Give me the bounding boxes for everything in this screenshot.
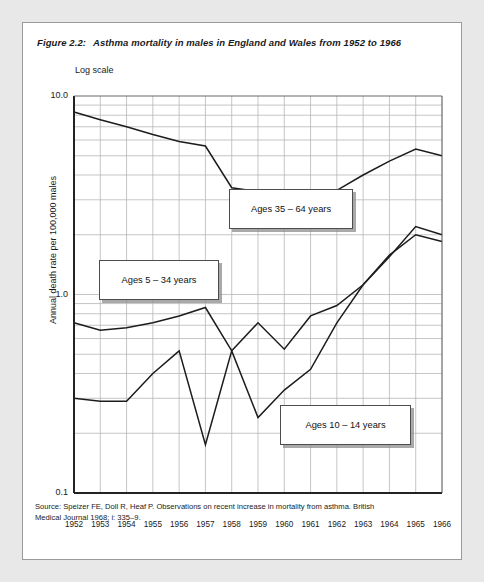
callout-ages-5-34: Ages 5 – 34 years bbox=[99, 260, 219, 300]
callout-label: Ages 5 – 34 years bbox=[122, 275, 197, 285]
y-tick-label: 0.1 bbox=[38, 487, 68, 497]
callout-ages-35-64: Ages 35 – 64 years bbox=[229, 189, 353, 229]
figure-page: Figure 2.2:Asthma mortality in males in … bbox=[22, 22, 462, 560]
callout-ages-10-14: Ages 10 – 14 years bbox=[280, 405, 411, 445]
source-line-1: Source: Speizer FE, Doll R, Heaf P. Obse… bbox=[35, 501, 445, 512]
source-line-2: Medical Journal 1968; i: 335–9. bbox=[35, 512, 445, 523]
callout-label: Ages 35 – 64 years bbox=[251, 204, 331, 214]
callout-label: Ages 10 – 14 years bbox=[305, 420, 385, 430]
y-tick-label: 10.0 bbox=[38, 90, 68, 100]
y-axis-label: Annual death rate per 100,000 males bbox=[48, 140, 58, 360]
asthma-mortality-chart bbox=[23, 23, 463, 561]
source-citation: Source: Speizer FE, Doll R, Heaf P. Obse… bbox=[35, 501, 445, 523]
y-tick-label: 1.0 bbox=[38, 289, 68, 299]
